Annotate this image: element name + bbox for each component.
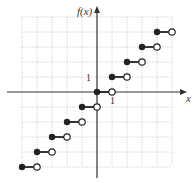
closed-endpoint-icon (19, 164, 25, 170)
open-endpoint-icon (154, 44, 160, 50)
x-tick-label-1: 1 (110, 95, 115, 106)
open-endpoint-icon (94, 104, 100, 110)
open-endpoint-icon (79, 119, 85, 125)
y-axis-arrow-icon (94, 6, 100, 13)
open-endpoint-icon (124, 74, 130, 80)
open-endpoint-icon (139, 59, 145, 65)
y-tick-label-1: 1 (86, 72, 91, 83)
open-endpoint-icon (34, 164, 40, 170)
closed-endpoint-icon (109, 74, 115, 80)
closed-endpoint-icon (124, 59, 130, 65)
closed-endpoint-icon (94, 89, 100, 95)
open-endpoint-icon (64, 134, 70, 140)
open-endpoint-icon (169, 29, 175, 35)
open-endpoint-icon (49, 149, 55, 155)
floor-function-chart: f(x) x 1 1 (0, 0, 195, 183)
x-axis-label: x (185, 92, 191, 104)
closed-endpoint-icon (139, 44, 145, 50)
closed-endpoint-icon (154, 29, 160, 35)
closed-endpoint-icon (79, 104, 85, 110)
closed-endpoint-icon (34, 149, 40, 155)
y-axis-label: f(x) (77, 5, 93, 18)
closed-endpoint-icon (49, 134, 55, 140)
closed-endpoint-icon (64, 119, 70, 125)
